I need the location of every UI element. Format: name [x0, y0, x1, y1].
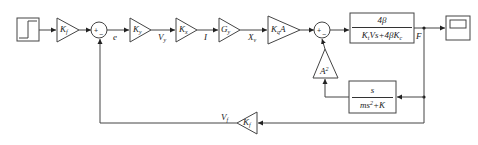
signal-vf-label: Vf [221, 113, 228, 123]
sum1-plus-sign: + [94, 27, 98, 34]
tf-feedback-expression: s ms2+K [352, 83, 393, 111]
tf-main-denominator: KtVs+4βKc [362, 28, 402, 41]
gain-ky-label: Ky [133, 25, 142, 35]
sum1-minus-sign: − [99, 31, 103, 38]
gain-kx-label: Kx [179, 25, 188, 35]
tf-feedback-numerator: s [371, 85, 375, 97]
gain-gy-label: Gy [221, 25, 230, 35]
signal-xv-label: Xv [248, 33, 256, 43]
sum2-plus-sign: + [317, 27, 321, 34]
signal-e-label: e [113, 33, 117, 42]
signal-vy-label: Vy [158, 33, 166, 43]
gain-kf-feedback-label: Kf [243, 118, 251, 128]
tf-main-expression: 4β KtVs+4βKc [352, 14, 412, 42]
signal-f-label: F [416, 32, 422, 41]
sum2-minus-sign: − [322, 31, 326, 38]
tf-feedback-denominator: ms2+K [360, 98, 385, 110]
gain-kf-input-label: Kf [60, 25, 68, 35]
signal-i-label: I [204, 33, 207, 42]
gain-kqa-label: KqA [271, 25, 286, 35]
tf-main-numerator: 4β [378, 15, 387, 27]
gain-a2-label: A2 [320, 66, 329, 76]
